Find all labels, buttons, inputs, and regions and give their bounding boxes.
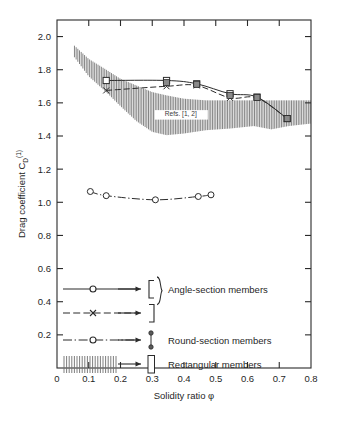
legend-open-circle-marker (90, 286, 96, 292)
square-marker (103, 77, 109, 83)
x-tick-label: 0.2 (114, 373, 127, 384)
x-tick-label: 0.6 (241, 373, 254, 384)
filled-square-marker (254, 95, 260, 101)
y-tick-label: 1.8 (38, 64, 51, 75)
y-tick-label: 1.2 (38, 164, 51, 175)
x-tick-label: 0.7 (273, 373, 286, 384)
x-tick-label: 0.4 (177, 373, 190, 384)
x-tick-label: 0.1 (82, 373, 95, 384)
y-tick-label: 1.6 (38, 97, 51, 108)
circle-marker (87, 189, 93, 195)
svg-text:Drag coefficient CD(1): Drag coefficient CD(1) (15, 150, 29, 238)
legend-label-round: Round-section members (168, 335, 272, 346)
vertical-hatch-swatch (64, 356, 116, 373)
x-tick-label: 0.8 (304, 373, 317, 384)
x-tick-label: 0.3 (146, 373, 159, 384)
annotation-refs: Refs. [1, 2] (165, 110, 197, 118)
y-axis-title: Drag coefficient CD(1) (15, 150, 29, 238)
y-tick-label: 1.0 (38, 197, 51, 208)
circle-marker (103, 193, 109, 199)
circle-marker (152, 197, 158, 203)
rectangle-glyph (148, 356, 155, 374)
drag-coefficient-chart: Refs. [1, 2] 00.10.20.30.40.50.60.70.8 0… (0, 0, 337, 421)
filled-square-marker (194, 81, 200, 87)
x-tick-label: 0.5 (209, 373, 222, 384)
y-tick-label: 0.6 (38, 263, 51, 274)
circle-marker (195, 193, 201, 199)
legend-label-rectangular: Rectangular members (168, 359, 262, 370)
annotation-layer: Refs. [1, 2] (155, 110, 208, 120)
y-tick-label: 2.0 (38, 31, 51, 42)
figure-container: Refs. [1, 2] 00.10.20.30.40.50.60.70.8 0… (0, 0, 337, 421)
filled-square-marker (164, 80, 170, 86)
legend-label-angle: Angle-section members (168, 284, 268, 295)
y-tick-label: 0.2 (38, 329, 51, 340)
y-tick-label: 0.4 (38, 296, 51, 307)
x-tick-label: 0 (54, 373, 59, 384)
filled-square-marker (284, 116, 290, 122)
x-axis-title: Solidity ratio φ (154, 390, 215, 401)
circle-marker (208, 192, 214, 198)
filled-square-marker (227, 92, 233, 98)
legend-open-circle-marker (90, 337, 96, 343)
y-tick-label: 1.4 (38, 130, 51, 141)
y-tick-label: 0.8 (38, 230, 51, 241)
